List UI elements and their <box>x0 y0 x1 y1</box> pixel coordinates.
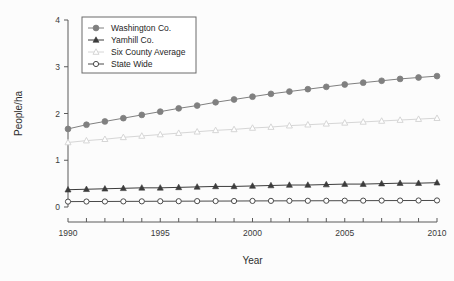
legend-entry-label: Washington Co. <box>111 23 171 33</box>
x-axis-tick-label: 2005 <box>335 228 354 238</box>
series-marker <box>287 198 292 203</box>
series-marker <box>120 115 126 121</box>
series-marker <box>65 126 71 132</box>
series-marker <box>323 84 329 90</box>
legend-entry-label: Yamhill Co. <box>111 35 154 45</box>
y-axis-tick-label: 1 <box>55 155 60 165</box>
line-chart: 01234People/ha19901995200020052010YearWa… <box>0 0 454 281</box>
series-marker <box>195 199 200 204</box>
series-marker <box>287 89 293 95</box>
series-marker <box>324 198 329 203</box>
series-marker <box>65 199 70 204</box>
series-marker <box>102 119 108 125</box>
series-marker <box>213 99 219 105</box>
series-marker <box>176 105 182 111</box>
x-axis-tick-label: 2010 <box>428 228 447 238</box>
series-marker <box>194 103 200 109</box>
series-marker <box>268 198 273 203</box>
series-marker <box>397 76 403 82</box>
legend-marker-sample <box>93 61 98 66</box>
series-marker <box>231 198 236 203</box>
series-marker <box>305 198 310 203</box>
series-marker <box>250 94 256 100</box>
y-axis-tick-label: 4 <box>55 15 60 25</box>
series-marker <box>305 86 311 92</box>
series-marker <box>416 198 421 203</box>
series-marker <box>157 109 163 115</box>
series-marker <box>139 199 144 204</box>
series-marker <box>158 199 163 204</box>
series-marker <box>360 80 366 86</box>
series-marker <box>361 198 366 203</box>
legend-entry-label: Six County Average <box>111 47 186 57</box>
x-axis-title: Year <box>242 255 263 266</box>
series-marker <box>342 198 347 203</box>
series-marker <box>139 112 145 118</box>
series-marker <box>102 199 107 204</box>
series-marker <box>121 199 126 204</box>
series-marker <box>416 75 422 81</box>
y-axis-tick-label: 0 <box>55 202 60 212</box>
series-marker <box>398 198 403 203</box>
series-marker <box>84 199 89 204</box>
series-marker <box>379 78 385 84</box>
series-marker <box>434 73 440 79</box>
series-marker <box>379 198 384 203</box>
y-axis-title: People/ha <box>13 91 24 136</box>
series-marker <box>434 179 440 185</box>
series-marker <box>342 82 348 88</box>
x-axis-tick-label: 2000 <box>243 228 262 238</box>
y-axis-tick-label: 3 <box>55 62 60 72</box>
series-marker <box>176 199 181 204</box>
series-marker <box>434 115 440 121</box>
series-marker <box>231 97 237 103</box>
legend-marker-sample <box>93 25 99 31</box>
x-axis-tick-label: 1995 <box>151 228 170 238</box>
legend-entry-label: State Wide <box>111 59 153 69</box>
series-marker <box>84 122 90 128</box>
chart-figure: 01234People/ha19901995200020052010YearWa… <box>0 0 454 281</box>
series-marker <box>250 198 255 203</box>
x-axis-tick-label: 1990 <box>59 228 78 238</box>
series-marker <box>434 198 439 203</box>
series-marker <box>268 91 274 97</box>
series-marker <box>213 198 218 203</box>
y-axis-tick-label: 2 <box>55 109 60 119</box>
